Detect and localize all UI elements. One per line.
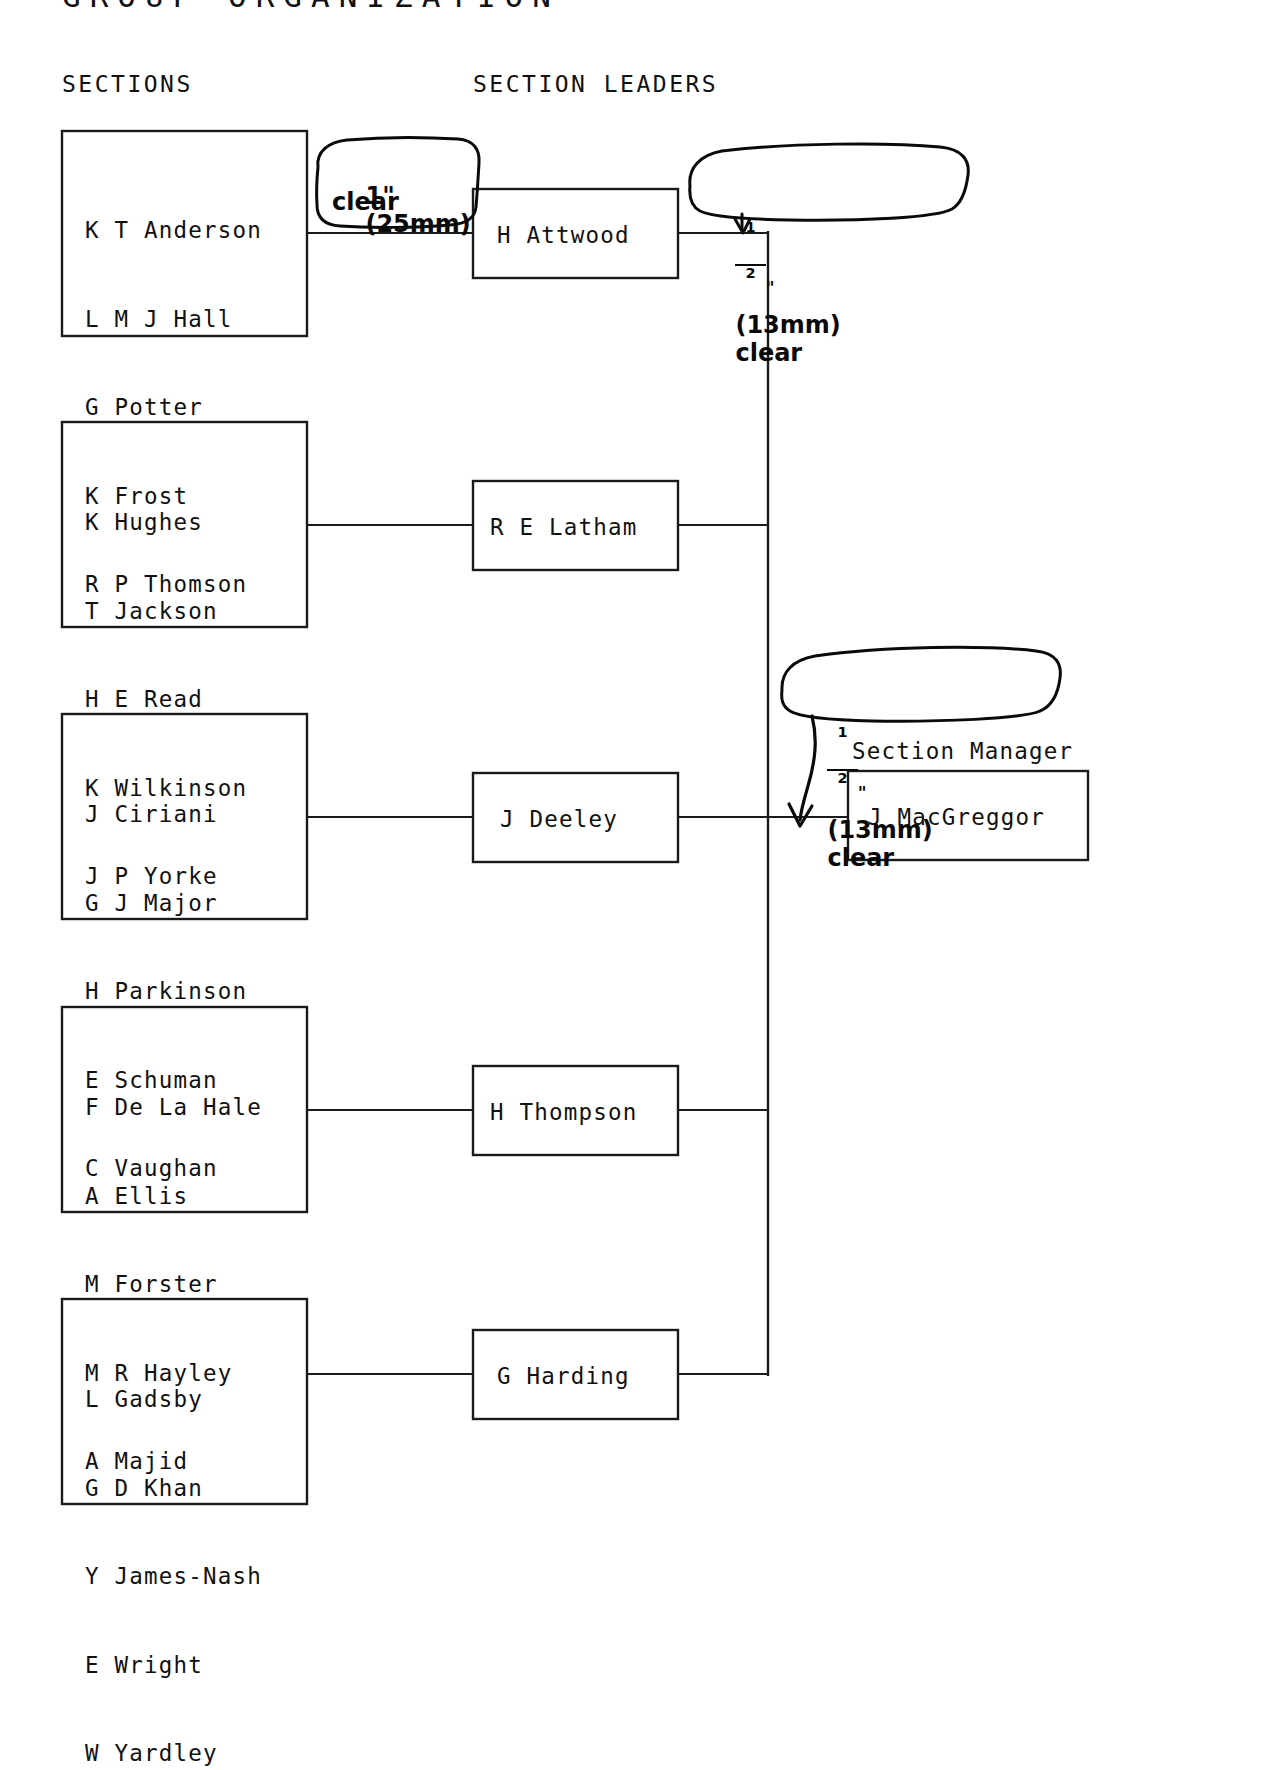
list-item: L M J Hall [85,305,262,335]
annotation-3-text: 1 2 " (13mm) clear [794,668,933,900]
annotation-1-line-2: clear [332,188,399,216]
list-item: L Gadsby [85,1385,262,1415]
list-item: M Forster [85,1270,262,1300]
leader-label-4: H Thompson [490,1099,637,1125]
list-item: G Potter [85,393,262,423]
annotation-3-fraction: 1 2 [827,695,857,815]
list-item: T Jackson [85,597,247,627]
column-header-sections: SECTIONS [62,71,193,97]
list-item: E Wright [85,1651,262,1681]
annotation-2-text: 1 2 " (13mm) clear [702,163,841,395]
list-item: H E Read [85,685,247,715]
annotation-2-inch-mark: " [766,278,775,298]
annotation-2-metric: (13mm) [735,311,840,339]
annotation-2-fraction: 1 2 [735,190,765,310]
list-item: G J Major [85,889,247,919]
page-title: GROUP ORGANIZATION [62,0,560,14]
leader-label-1: H Attwood [497,222,630,248]
list-item: A Ellis [85,1182,262,1212]
section-5-member-list: L Gadsby G D Khan Y James-Nash E Wright … [85,1326,262,1770]
list-item: K T Anderson [85,216,262,246]
list-item: G D Khan [85,1474,262,1504]
leader-label-3: J Deeley [500,806,618,832]
column-header-section-leaders: SECTION LEADERS [473,71,718,97]
annotation-2-denominator: 2 [735,264,765,281]
list-item: Y James-Nash [85,1562,262,1592]
annotation-2-word: clear [735,339,802,367]
annotation-3-numerator: 1 [827,725,857,740]
leader-label-5: G Harding [497,1363,630,1389]
annotation-3-inch-mark: " [858,783,867,803]
annotation-3-denominator: 2 [827,769,857,786]
list-item: K Hughes [85,508,247,538]
annotation-2-numerator: 1 [735,220,765,235]
list-item: J Ciriani [85,800,247,830]
leader-label-2: R E Latham [490,514,637,540]
leader-box-group [473,189,678,1419]
connector-section-to-leader-group [307,233,473,1374]
annotation-3-metric: (13mm) [827,816,932,844]
list-item: F De La Hale [85,1093,262,1123]
list-item: H Parkinson [85,977,247,1007]
annotation-3-word: clear [827,844,894,872]
list-item: W Yardley [85,1739,262,1769]
connector-leader-to-trunk-group [678,233,768,1374]
